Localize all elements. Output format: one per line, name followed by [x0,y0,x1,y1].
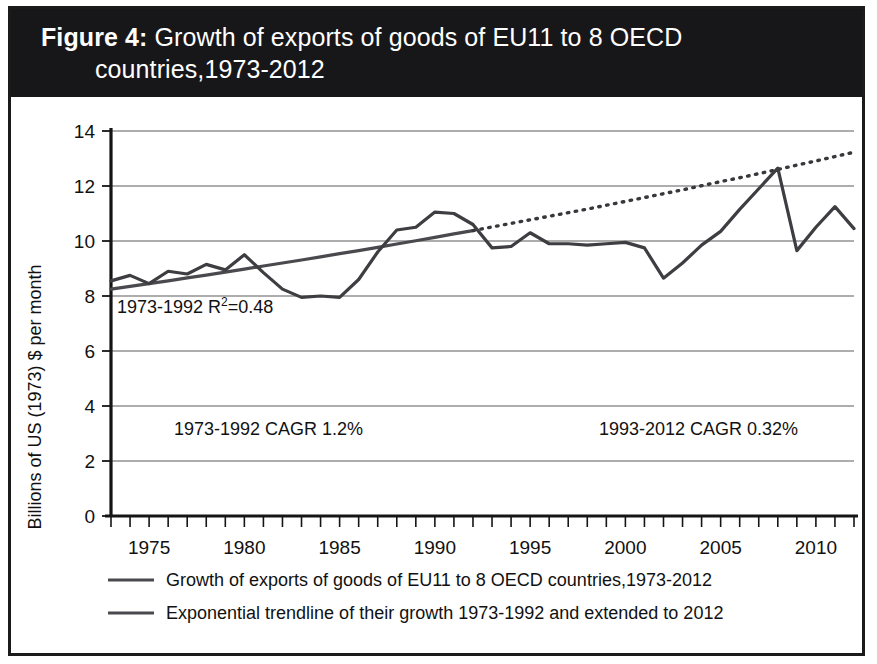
x-tick-label: 1975 [128,537,170,558]
y-tick-label: 12 [74,176,95,197]
x-axis-ticks [111,516,854,527]
figure-title-line1: Growth of exports of goods of EU11 to 8 … [155,23,683,51]
y-tick-label: 2 [84,451,95,472]
chart-legend: Growth of exports of goods of EU11 to 8 … [108,570,723,623]
legend-label-trendline: Exponential trendline of their growth 19… [166,603,723,623]
x-tick-label: 1990 [414,537,456,558]
figure-title-line2: countries,1973-2012 [41,53,325,85]
y-tick-label: 4 [84,396,95,417]
y-tick-label: 10 [74,231,95,252]
annotation-r-squared: 1973-1992 R2=0.48 [117,295,273,317]
y-tick-label: 14 [74,121,96,142]
page-title: Figure 4: Growth of exports of goods of … [11,21,708,85]
trendline-fitted-segment [111,231,473,290]
y-tick-label: 8 [84,286,95,307]
figure-label: Figure 4: [41,23,147,51]
legend-label-series: Growth of exports of goods of EU11 to 8 … [166,570,712,590]
annotation-cagr-early: 1973-1992 CAGR 1.2% [174,419,363,439]
x-tick-label: 1980 [223,537,265,558]
y-tick-label: 6 [84,341,95,362]
figure-title-bar: Figure 4: Growth of exports of goods of … [11,9,862,97]
series-exports-growth-line [111,168,854,297]
figure-container: Figure 4: Growth of exports of goods of … [0,0,877,664]
y-axis-title: Billions of US (1973) $ per month [25,264,45,529]
chart-area: 02468101214 1975198019851990199520002005… [11,97,862,653]
annotation-cagr-late: 1993-2012 CAGR 0.32% [599,419,798,439]
x-tick-label: 2010 [795,537,837,558]
x-tick-label: 2000 [604,537,646,558]
y-axis-tick-labels: 02468101214 [74,121,96,527]
x-tick-label: 1995 [509,537,551,558]
line-chart: 02468101214 1975198019851990199520002005… [11,97,862,653]
x-axis-tick-labels: 19751980198519901995200020052010 [128,537,837,558]
trendline-extended-segment [473,152,854,230]
y-tick-label: 0 [84,506,95,527]
x-tick-label: 2005 [700,537,742,558]
x-tick-label: 1985 [318,537,360,558]
